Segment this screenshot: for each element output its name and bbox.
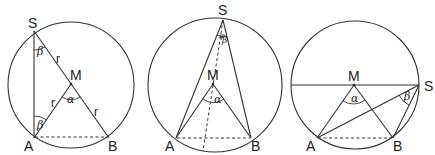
circle-2 (148, 18, 282, 152)
label-A: A (24, 138, 34, 154)
inscribed-angle-diagrams: S M A B r r r β β α S M A B φ β α (0, 0, 435, 155)
label-M: M (348, 68, 360, 84)
label-alpha: α (214, 93, 222, 106)
label-S: S (28, 15, 37, 31)
radius-MB (354, 85, 393, 138)
label-r-SM: r (56, 52, 60, 66)
label-A: A (165, 138, 175, 154)
label-S: S (424, 78, 433, 94)
label-A: A (306, 138, 316, 154)
figure-3: M S A B α β (291, 21, 433, 154)
label-beta: β (403, 90, 410, 103)
label-alpha: α (351, 92, 359, 105)
figure-1: S M A B r r r β β α (8, 15, 134, 154)
label-M: M (207, 67, 219, 83)
label-B: B (108, 138, 117, 154)
radius-MA (317, 85, 354, 138)
label-beta: β (221, 35, 227, 45)
label-r-MA: r (51, 96, 55, 110)
center-point-M (70, 83, 73, 86)
center-point-M (212, 83, 215, 86)
label-S: S (218, 2, 227, 18)
label-beta-top: β (36, 45, 43, 58)
figure-2: S M A B φ β α (148, 2, 282, 154)
label-B: B (393, 138, 402, 154)
center-point-M (353, 84, 356, 87)
label-beta-bottom: β (36, 119, 43, 132)
label-alpha: α (67, 93, 75, 106)
label-M: M (70, 67, 82, 83)
label-B: B (251, 138, 260, 154)
label-r-MB: r (94, 105, 98, 119)
